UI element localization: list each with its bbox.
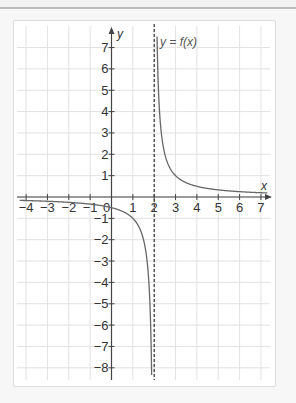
curve-right-branch — [157, 36, 267, 193]
curve-left-branch — [20, 200, 152, 375]
y-tick-label: −1 — [94, 211, 109, 226]
y-tick-label: −6 — [94, 318, 109, 333]
x-tick-label: −4 — [19, 200, 34, 215]
y-tick-label: 7 — [101, 40, 108, 55]
y-tick-label: 1 — [101, 168, 108, 183]
x-tick-label: 5 — [215, 200, 222, 215]
y-tick-label: 2 — [101, 147, 108, 162]
y-tick-label: −5 — [94, 296, 109, 311]
y-axis-label: y — [116, 27, 124, 41]
y-tick-label: 3 — [101, 125, 108, 140]
y-tick-label: −2 — [94, 232, 109, 247]
y-axis-arrow-icon — [109, 27, 115, 34]
x-tick-label: 7 — [257, 200, 264, 215]
function-label: y = f(x) — [159, 35, 197, 49]
function-graph: −4−3−2−101234567−8−7−6−5−4−3−2−11234567 … — [0, 0, 296, 403]
x-axis-arrow-icon — [265, 194, 272, 200]
curves — [20, 36, 268, 374]
x-tick-label: 4 — [193, 200, 200, 215]
y-tick-label: −4 — [94, 275, 109, 290]
x-tick-label: 3 — [172, 200, 179, 215]
x-tick-label: 6 — [236, 200, 243, 215]
x-axis-label: x — [260, 179, 268, 193]
y-tick-label: 5 — [101, 83, 108, 98]
x-tick-label: −3 — [40, 200, 55, 215]
y-tick-label: 6 — [101, 61, 108, 76]
x-tick-label: 2 — [151, 200, 158, 215]
y-tick-label: −7 — [94, 339, 109, 354]
grid — [17, 26, 270, 380]
y-tick-label: 4 — [101, 104, 108, 119]
x-tick-label: 1 — [129, 200, 136, 215]
y-tick-label: −8 — [94, 360, 109, 375]
y-tick-label: −3 — [94, 254, 109, 269]
